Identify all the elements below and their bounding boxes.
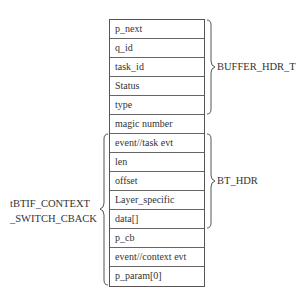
field-magic-number: magic number [110,115,204,134]
field-event-task-evt: event//task evt [110,134,204,153]
struct-memory-layout: p_next q_id task_id Status type magic nu… [109,19,205,287]
field-len: len [110,153,204,172]
buffer-hdr-label: BUFFER_HDR_T [217,60,296,74]
context-switch-label: tBTIF_CONTEXT _SWITCH_CBACK [10,196,97,226]
field-task-id: task_id [110,58,204,77]
field-q-id: q_id [110,39,204,58]
context-switch-label-line2: _SWITCH_CBACK [10,211,97,226]
field-data: data[] [110,210,204,229]
field-event-context-evt: event//context evt [110,248,204,267]
field-p-param: p_param[0] [110,267,204,286]
field-p-next: p_next [110,20,204,39]
field-status: Status [110,77,204,96]
field-offset: offset [110,172,204,191]
field-p-cb: p_cb [110,229,204,248]
context-switch-label-line1: tBTIF_CONTEXT [10,196,97,211]
context-switch-brace-icon [97,133,109,286]
field-layer-specific: Layer_specific [110,191,204,210]
field-type: type [110,96,204,115]
bt-hdr-label: BT_HDR [217,174,258,188]
